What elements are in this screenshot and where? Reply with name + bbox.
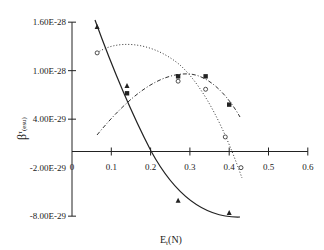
x-tick-label: 0.6	[302, 162, 314, 172]
axes: 00.10.20.30.40.50.61.60E-281.00E-284.00E…	[30, 17, 314, 221]
solid-fit-curve	[95, 20, 240, 217]
circle-marker	[95, 51, 99, 55]
triangle-marker	[95, 24, 100, 29]
circle-marker	[204, 87, 208, 91]
x-tick-label: 0.3	[184, 162, 196, 172]
y-tick-label: 1.60E-28	[33, 17, 67, 27]
square-marker	[203, 74, 207, 78]
square-marker	[227, 102, 231, 106]
data-points	[95, 24, 243, 215]
y-axis-label: βτ(esu)	[15, 116, 29, 140]
dash-dot-fit-curve	[97, 74, 240, 135]
y-tick-label: 4.00E-29	[33, 114, 67, 124]
square-marker	[125, 91, 129, 95]
triangle-marker	[176, 198, 181, 203]
x-tick-label: 0.1	[106, 162, 117, 172]
circle-marker	[176, 79, 180, 83]
y-tick-label: -8.00E-29	[30, 211, 67, 221]
chart: 00.10.20.30.40.50.61.60E-281.00E-284.00E…	[0, 0, 324, 250]
fit-curves	[95, 20, 242, 217]
x-tick-label: 0	[70, 162, 75, 172]
square-marker	[176, 74, 180, 78]
dotted-fit-curve	[97, 44, 242, 178]
circle-marker	[239, 166, 243, 170]
x-tick-label: 0.5	[263, 162, 275, 172]
x-tick-label: 0.4	[224, 162, 236, 172]
circle-marker	[223, 135, 227, 139]
triangle-marker	[227, 210, 232, 215]
x-tick-label: 0.2	[145, 162, 156, 172]
triangle-marker	[125, 83, 130, 88]
y-tick-label: -2.00E-29	[30, 163, 67, 173]
y-tick-label: 1.00E-28	[33, 66, 67, 76]
x-axis-label: Et(N)	[160, 234, 182, 247]
